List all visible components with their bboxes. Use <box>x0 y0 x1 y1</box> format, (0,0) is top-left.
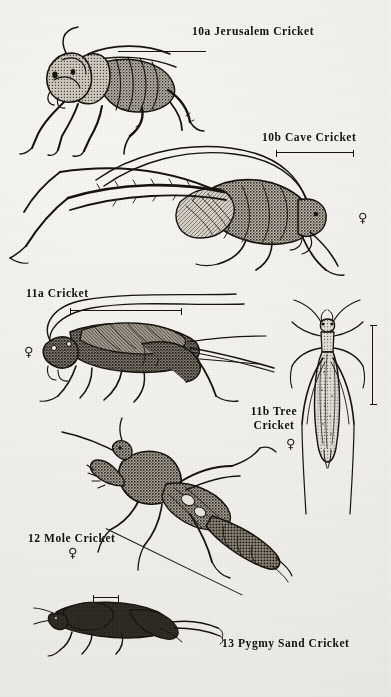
label-tree-cricket-line1: 11b Tree <box>251 405 297 417</box>
figure-cave-cricket <box>10 140 370 280</box>
illustration-plate: 10a Jerusalem Cricket <box>0 0 391 697</box>
figure-pygmy-sand-cricket <box>34 588 224 658</box>
label-mole-cricket: 12 Mole Cricket <box>28 531 115 545</box>
figure-jerusalem-cricket <box>18 18 208 158</box>
sex-symbol-mole-cricket: ♀ <box>68 546 78 559</box>
label-jerusalem-cricket: 10a Jerusalem Cricket <box>192 24 314 38</box>
scale-bar-jerusalem-cricket <box>118 51 206 52</box>
scale-bar-cave-cricket <box>276 152 354 153</box>
label-pygmy-sand-cricket: 13 Pygmy Sand Cricket <box>222 636 350 650</box>
sex-symbol-cricket: ♀ <box>24 345 34 358</box>
label-cave-cricket: 10b Cave Cricket <box>262 130 356 144</box>
scale-bar-tree-cricket <box>372 325 373 405</box>
figure-mole-cricket <box>62 418 292 583</box>
label-cricket: 11a Cricket <box>26 286 89 300</box>
scale-bar-pygmy-sand-cricket <box>93 597 119 598</box>
scale-bar-cricket <box>70 310 182 311</box>
figure-cricket <box>22 292 282 402</box>
sex-symbol-cave-cricket: ♀ <box>358 211 368 224</box>
